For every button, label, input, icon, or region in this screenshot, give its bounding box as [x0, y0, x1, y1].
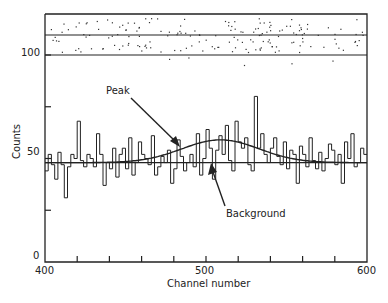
residual-dot — [363, 35, 364, 36]
residual-dot — [293, 32, 294, 33]
residual-dot — [128, 36, 129, 37]
residual-dot — [89, 35, 90, 36]
residual-dot — [302, 41, 303, 42]
residual-dot — [146, 47, 147, 48]
residual-dot — [80, 51, 81, 52]
background-annotation: Background — [226, 208, 286, 219]
residual-dot — [206, 40, 207, 41]
histogram-step — [45, 96, 367, 197]
residual-dot — [181, 33, 182, 34]
residual-dot — [139, 36, 140, 37]
residual-dot — [334, 34, 335, 35]
residual-dot — [359, 40, 360, 41]
y-axis-title: Counts — [11, 122, 22, 162]
residual-dot — [51, 29, 52, 30]
residual-dot — [212, 46, 213, 47]
residual-dot — [194, 30, 195, 31]
residual-dot — [75, 50, 76, 51]
residual-dot — [202, 50, 203, 51]
residual-dot — [149, 22, 150, 23]
residual-dot — [179, 31, 180, 32]
residual-dot — [137, 45, 138, 46]
residual-dot — [332, 61, 333, 62]
residual-dot — [167, 35, 168, 36]
residual-dot — [144, 46, 145, 47]
residual-dot — [299, 25, 300, 26]
residual-dot — [255, 28, 256, 29]
spectrum-chart — [0, 0, 388, 303]
residual-dot — [269, 22, 270, 23]
residual-dot — [253, 32, 254, 33]
residual-dot — [139, 46, 140, 47]
residual-dot — [304, 33, 305, 34]
residual-dot — [62, 32, 63, 33]
residual-dot — [299, 30, 300, 31]
residual-dot — [112, 36, 113, 37]
residual-dot — [268, 41, 269, 42]
residual-dot — [160, 31, 161, 32]
residual-dot — [169, 59, 170, 60]
residual-dot — [300, 27, 301, 28]
y-tick-label-50: 50 — [27, 146, 40, 157]
residual-dot — [231, 26, 232, 27]
residual-dot — [214, 48, 215, 49]
residual-dot — [260, 35, 261, 36]
residual-dot — [301, 29, 302, 30]
residual-dot — [218, 47, 219, 48]
residual-dot — [260, 50, 261, 51]
residual-dot — [188, 57, 189, 58]
residual-dot — [83, 34, 84, 35]
residual-dot — [160, 51, 161, 52]
residual-dot — [128, 23, 129, 24]
residual-dot — [107, 19, 108, 20]
residual-dot — [290, 26, 291, 27]
residual-dot — [356, 34, 357, 35]
residual-dot — [237, 39, 238, 40]
residual-dot — [296, 34, 297, 35]
residual-dot — [108, 37, 109, 38]
residual-dot — [186, 48, 187, 49]
residual-dot — [230, 30, 231, 31]
residual-dot — [119, 49, 120, 50]
residual-dot — [149, 41, 150, 42]
residual-dot — [190, 35, 191, 36]
residual-dot — [134, 23, 135, 24]
residual-dot — [199, 35, 200, 36]
residual-dot — [242, 32, 243, 33]
residual-dot — [68, 29, 69, 30]
residual-dot — [299, 52, 300, 53]
residual-dot — [334, 39, 335, 40]
residual-dot — [191, 45, 192, 46]
residual-dot — [215, 35, 216, 36]
residual-dot — [282, 30, 283, 31]
residual-dot — [318, 35, 319, 36]
residual-dot — [323, 47, 324, 48]
residual-dot — [278, 36, 279, 37]
residual-dot — [55, 37, 56, 38]
residual-dot — [276, 46, 277, 47]
residual-dot — [255, 49, 256, 50]
residual-dot — [279, 30, 280, 31]
residual-dot — [234, 21, 235, 22]
residual-dot — [228, 25, 229, 26]
residual-dot — [122, 45, 123, 46]
residual-dot — [114, 45, 115, 46]
residual-dot — [177, 33, 178, 34]
residual-dot — [275, 52, 276, 53]
residual-dot — [102, 49, 103, 50]
residual-dot — [286, 26, 287, 27]
residual-dot — [244, 65, 245, 66]
residual-dot — [259, 35, 260, 36]
residual-dot — [279, 50, 280, 51]
residual-dot — [291, 19, 292, 20]
residual-dot — [270, 25, 271, 26]
residual-dot — [169, 32, 170, 33]
residual-dot — [293, 42, 294, 43]
x-axis-title: Channel number — [167, 278, 250, 289]
y-tick-label-0: 0 — [33, 250, 39, 261]
residual-dot — [151, 18, 152, 19]
residual-dot — [78, 48, 79, 49]
residual-dot — [128, 45, 129, 46]
residual-dot — [307, 29, 308, 30]
residual-dot — [307, 24, 308, 25]
